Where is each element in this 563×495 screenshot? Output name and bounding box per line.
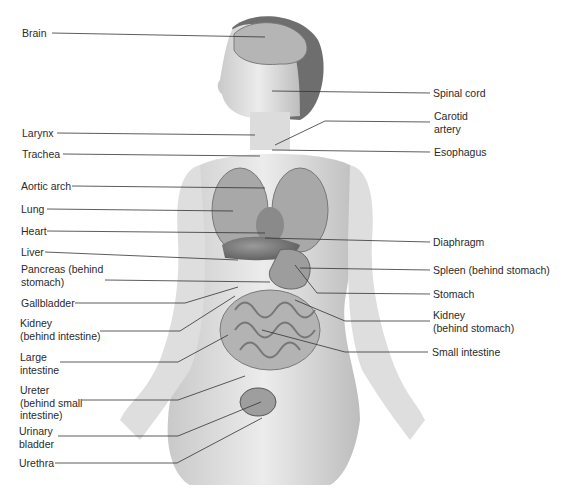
- label-carotid-artery: Carotid artery: [434, 110, 468, 135]
- anatomy-figure: Brain Larynx Trachea Aortic arch Lung He…: [0, 0, 563, 495]
- label-larynx: Larynx: [22, 127, 54, 140]
- label-small-intestine: Small intestine: [432, 346, 500, 359]
- label-urethra: Urethra: [19, 457, 54, 470]
- label-kidney-behind-intestine: Kidney (behind intestine): [20, 317, 101, 342]
- arm-right: [348, 165, 425, 440]
- label-aortic-arch: Aortic arch: [21, 180, 71, 193]
- label-diaphragm: Diaphragm: [433, 236, 484, 249]
- label-stomach: Stomach: [433, 288, 474, 301]
- bladder: [240, 388, 276, 416]
- label-urinary-bladder: Urinary bladder: [19, 425, 54, 450]
- label-esophagus: Esophagus: [434, 146, 487, 159]
- label-spleen: Spleen (behind stomach): [433, 264, 550, 277]
- label-trachea: Trachea: [22, 148, 60, 161]
- label-spinal-cord: Spinal cord: [433, 87, 486, 100]
- label-ureter: Ureter (behind small intestine): [20, 384, 82, 422]
- label-lung: Lung: [21, 203, 44, 216]
- label-large-intestine: Large intestine: [20, 351, 59, 376]
- label-gallbladder: Gallbladder: [21, 297, 75, 310]
- label-brain: Brain: [22, 27, 47, 40]
- label-kidney-behind-stomach: Kidney (behind stomach): [433, 309, 514, 334]
- label-pancreas: Pancreas (behind stomach): [21, 263, 103, 288]
- neck: [250, 112, 290, 150]
- label-liver: Liver: [21, 246, 44, 259]
- label-heart: Heart: [21, 225, 47, 238]
